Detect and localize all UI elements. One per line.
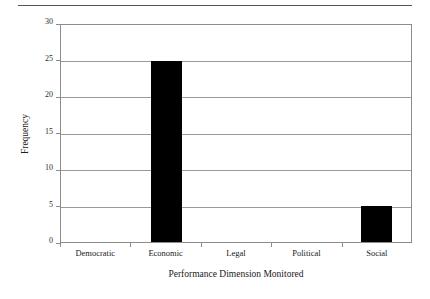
y-tick-label: 5 — [49, 200, 53, 210]
y-axis-ticks: 30 25 20 15 10 5 0 — [0, 24, 60, 243]
x-label-political: Political — [271, 247, 341, 259]
x-label-democratic: Democratic — [60, 247, 130, 259]
y-tick-label: 15 — [45, 127, 53, 137]
y-tick-label: 20 — [45, 90, 53, 100]
bar-slot-economic — [131, 25, 201, 242]
bar-economic[interactable] — [151, 61, 182, 242]
x-label-legal: Legal — [201, 247, 271, 259]
x-axis-title: Performance Dimension Monitored — [60, 268, 412, 281]
top-horizontal-rule — [18, 5, 412, 6]
bar-social[interactable] — [361, 206, 392, 242]
y-tick-label: 25 — [45, 54, 53, 64]
x-label-social: Social — [342, 247, 412, 259]
bars-container — [61, 25, 411, 242]
x-label-economic: Economic — [130, 247, 200, 259]
bar-slot-legal — [201, 25, 271, 242]
x-axis-labels: Democratic Economic Legal Political Soci… — [60, 247, 412, 259]
bar-slot-democratic — [61, 25, 131, 242]
y-tick-label: 0 — [49, 236, 53, 246]
bar-slot-social — [341, 25, 411, 242]
y-tick-label: 10 — [45, 163, 53, 173]
bar-slot-political — [271, 25, 341, 242]
y-tick-label: 30 — [45, 17, 53, 27]
bar-chart-figure: Frequency 30 25 20 15 10 5 0 — [0, 0, 430, 299]
plot-area — [60, 24, 412, 243]
